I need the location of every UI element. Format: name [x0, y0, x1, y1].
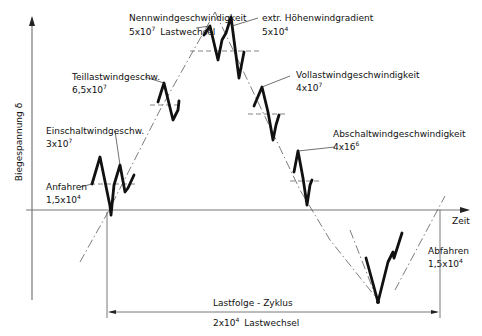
dimension-arrow-left-icon [108, 310, 116, 314]
annotation-teillast: Teillastwindgeschw. 6,5x107 [71, 72, 160, 95]
dimension-arrow-right-icon [431, 310, 439, 314]
mean-level-markers [90, 51, 322, 184]
annotation-abschalt: Abschaltwindgeschwindigkeit 4x166 [333, 129, 466, 152]
cycle-value: 2x104Lastwechsel [213, 316, 299, 328]
annotation-vollast: Vollastwindgeschwindigkeit 4x107 [296, 70, 420, 93]
annotation-label: Abfahren [428, 246, 469, 256]
cycle-dimension: Lastfolge - Zyklus 2x104Lastwechsel [107, 210, 440, 328]
annotation-einschalt: Einschaltwindgeschw. 3x107 [46, 126, 144, 149]
svg-text:5x104: 5x104 [262, 25, 289, 37]
load-cycle-diagram: Biegespannung δ Zeit [0, 0, 482, 336]
stress-waveforms [92, 17, 402, 304]
annotation-label: extr. Höhenwindgradient [262, 13, 374, 23]
svg-text:4x166: 4x166 [333, 140, 360, 152]
y-axis-arrow-icon [29, 16, 35, 26]
annotation-label: Nennwindgeschwindigkeit [129, 13, 247, 23]
annotation-label: Vollastwindgeschwindigkeit [296, 70, 420, 80]
annotation-label: Anfahren [46, 182, 87, 192]
cycle-end-point [376, 300, 380, 304]
svg-text:1,5x104: 1,5x104 [428, 257, 463, 269]
annotation-label: Abschaltwindgeschwindigkeit [333, 129, 466, 139]
y-axis: Biegespannung δ [14, 16, 35, 300]
x-axis-arrow-icon [460, 207, 470, 213]
annotation-hoehenwind: extr. Höhenwindgradient 5x104 [262, 13, 374, 37]
annotation-label: Einschaltwindgeschw. [46, 126, 144, 136]
svg-text:1,5x104: 1,5x104 [46, 193, 81, 205]
y-axis-label: Biegespannung δ [14, 102, 24, 181]
x-axis: Zeit [26, 207, 470, 226]
svg-text:3x107: 3x107 [46, 137, 73, 149]
annotation-anfahren: Anfahren 1,5x104 [46, 182, 87, 205]
svg-text:5x107Lastwechsel: 5x107Lastwechsel [129, 25, 215, 37]
annotation-abfahren: Abfahren 1,5x104 [428, 246, 469, 269]
cycle-label: Lastfolge - Zyklus [213, 298, 293, 308]
x-axis-label: Zeit [452, 216, 470, 226]
annotation-label: Teillastwindgeschw. [71, 72, 160, 82]
svg-text:4x107: 4x107 [296, 81, 323, 93]
svg-text:6,5x107: 6,5x107 [72, 83, 107, 95]
